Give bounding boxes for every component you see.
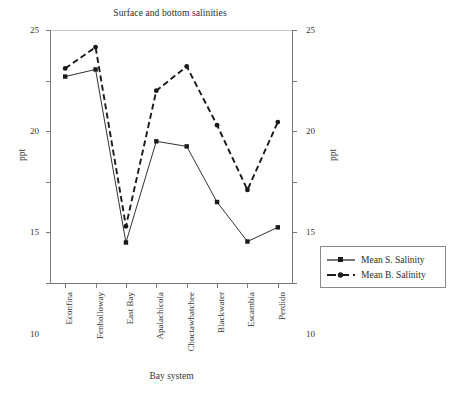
y-tick-left: 0 [46, 283, 51, 284]
x-tick [96, 283, 97, 288]
legend-item[interactable]: Mean B. Salinity [326, 267, 439, 282]
data-point [276, 225, 280, 229]
y-tick-label-left: 10 [30, 329, 39, 339]
x-tick [187, 283, 188, 288]
series-1 [63, 67, 280, 244]
series-line [65, 47, 278, 226]
y-tick-label-right: 15 [306, 227, 315, 237]
legend-marker-icon [326, 254, 356, 266]
x-tick [126, 283, 127, 288]
x-tick [278, 283, 279, 288]
legend-marker-icon [326, 269, 356, 281]
y-tick-label-left: 15 [30, 227, 39, 237]
data-point [154, 139, 158, 143]
x-tick-label-text: Escambia [246, 292, 256, 327]
y-tick-label-right: 25 [306, 25, 315, 35]
y-tick-label-right: 20 [306, 126, 315, 136]
x-axis-label: Bay system [50, 371, 293, 381]
x-tick [156, 283, 157, 288]
x-tick-label-text: Econfina [64, 292, 74, 324]
series-2 [63, 45, 280, 229]
data-point [275, 120, 280, 125]
legend-item[interactable]: Mean S. Salinity [326, 252, 439, 267]
data-point [184, 64, 189, 69]
y-tick-label-right: 10 [306, 329, 315, 339]
data-point [63, 66, 68, 71]
chart-title: Surface and bottom salinities [45, 8, 295, 18]
data-point [245, 188, 250, 193]
x-tick-label-text: Choctawhatchee [186, 292, 196, 351]
data-point [124, 240, 128, 244]
data-point [215, 200, 219, 204]
x-tick-label-text: Perdido [277, 292, 287, 320]
chart-figure: Surface and bottom salinities 0510152025… [0, 0, 458, 402]
data-point [93, 45, 98, 50]
series-line [65, 69, 278, 242]
plot-area: 0510152025 0510152025 EconfinaFenhollowa… [50, 30, 293, 283]
data-point [124, 224, 129, 229]
data-point [93, 67, 97, 71]
x-tick-label-text: Apalachicola [155, 292, 165, 339]
data-point [154, 88, 159, 93]
data-point [63, 74, 67, 78]
data-point [245, 239, 249, 243]
y-axis-label-right: ppt [328, 149, 338, 161]
data-point [215, 123, 220, 128]
y-axis-label-left: ppt [17, 149, 27, 161]
series-lines [50, 30, 293, 283]
y-tick-label-left: 25 [30, 25, 39, 35]
y-tick-label-left: 20 [30, 126, 39, 136]
data-point [184, 144, 188, 148]
x-tick [217, 283, 218, 288]
x-tick-label-text: East Bay [125, 292, 135, 324]
chart-legend: Mean S. SalinityMean B. Salinity [320, 246, 446, 288]
y-tick-right: 0 [292, 283, 297, 284]
x-tick [65, 283, 66, 288]
x-tick-label-text: Blackwater [216, 292, 226, 333]
legend-label: Mean S. Salinity [361, 255, 425, 265]
x-tick [247, 283, 248, 288]
x-tick-label-text: Fenholloway [95, 292, 105, 339]
legend-label: Mean B. Salinity [361, 270, 426, 280]
